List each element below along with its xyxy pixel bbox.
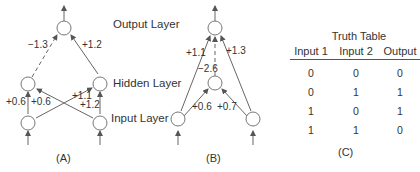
cell: 0	[290, 86, 332, 98]
caption-c: (C)	[338, 146, 353, 158]
hidden-layer-label: Hidden Layer	[113, 77, 182, 89]
weight-h-out-b: −2.6	[198, 63, 218, 74]
cell: 0	[332, 67, 380, 79]
weight-i2-h2: +1.2	[80, 99, 100, 110]
weight-i1-h-b: +0.6	[192, 101, 212, 112]
cell: 0	[332, 105, 380, 117]
hidden-node-1	[21, 77, 35, 91]
network-b: +1.1 +1.3 −2.6 +0.6 +0.7 (B)	[171, 6, 260, 164]
input-node-2-b	[246, 112, 260, 126]
header-input-2: Input 2	[332, 45, 380, 57]
truth-table-title: Truth Table	[290, 30, 420, 42]
weight-h2-out: +1.2	[82, 39, 102, 50]
weight-i2-h1: +0.6	[31, 96, 51, 107]
weight-h1-out: −1.3	[28, 39, 48, 50]
weight-i2-out-b: +1.3	[226, 45, 246, 56]
input-node-2	[93, 116, 107, 130]
weight-i2-h-b: +0.7	[217, 101, 237, 112]
table-row: 1 0 1	[290, 105, 420, 117]
cell: 0	[290, 67, 332, 79]
weight-i1-out-b: +1.1	[186, 47, 206, 58]
header-output: Output	[380, 45, 420, 57]
cell: 1	[332, 124, 380, 136]
caption-a: (A)	[56, 152, 71, 164]
hidden-node-2	[93, 77, 107, 91]
input-node-1-b	[171, 112, 185, 126]
caption-b: (B)	[206, 152, 221, 164]
cell: 1	[380, 105, 420, 117]
cell: 1	[332, 86, 380, 98]
table-row: 0 1 1	[290, 86, 420, 98]
hidden-node-b	[208, 76, 222, 90]
cell: 0	[380, 67, 420, 79]
truth-table-header: Input 1 Input 2 Output	[290, 45, 420, 60]
output-node	[57, 21, 71, 35]
table-row: 0 0 0	[290, 67, 420, 79]
cell: 0	[380, 124, 420, 136]
output-layer-label: Output Layer	[113, 18, 180, 30]
truth-table: Truth Table Input 1 Input 2 Output 0 0 0…	[290, 30, 420, 136]
table-row: 1 1 0	[290, 124, 420, 136]
network-a: −1.3 +1.2 +0.6 +0.6 +1.1 +1.2 (A)	[6, 6, 107, 164]
cell: 1	[290, 105, 332, 117]
input-layer-label: Input Layer	[111, 112, 169, 124]
cell: 1	[290, 124, 332, 136]
output-node-b	[208, 21, 222, 35]
input-node-1	[21, 116, 35, 130]
header-input-1: Input 1	[290, 45, 332, 57]
weight-i1-h1: +0.6	[6, 96, 26, 107]
cell: 1	[380, 86, 420, 98]
